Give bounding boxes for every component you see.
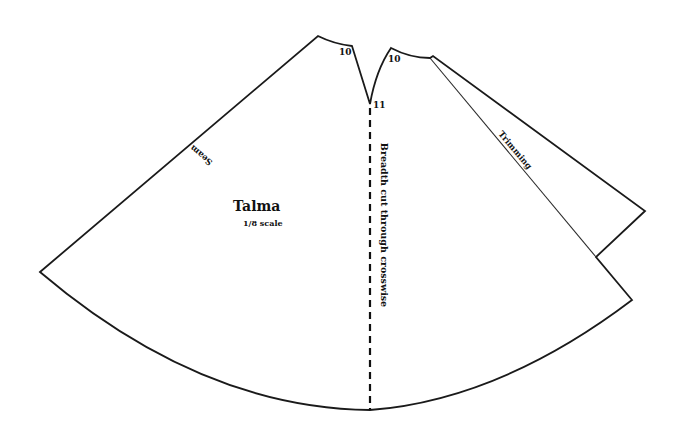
talma-pattern-diagram: 10 10 11 Talma 1/8 scale Seam Trimming B… <box>0 0 681 431</box>
point-label-right-neck: 10 <box>388 54 401 64</box>
point-label-left-neck: 10 <box>339 47 352 57</box>
pattern-outline <box>40 36 645 410</box>
point-label-v-bottom: 11 <box>373 100 386 110</box>
trimming-label: Trimming <box>496 129 534 171</box>
diagram-title: Talma <box>233 198 280 214</box>
center-line-label: Breadth cut through crosswise <box>379 143 390 307</box>
seam-label: Seam <box>188 143 214 167</box>
scale-label: 1/8 scale <box>243 218 283 228</box>
